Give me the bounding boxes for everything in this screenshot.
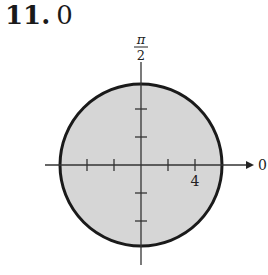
tick-label-4: 4 [191, 173, 200, 189]
pi-numerator: π [136, 32, 146, 47]
polar-graph: 4 0 π 2 [0, 0, 268, 275]
polar-axis-label: 0 [258, 157, 267, 173]
vertical-axis-label: π 2 [134, 32, 148, 63]
pi-denominator: 2 [137, 48, 145, 63]
polar-axis-arrow-icon [246, 161, 254, 169]
